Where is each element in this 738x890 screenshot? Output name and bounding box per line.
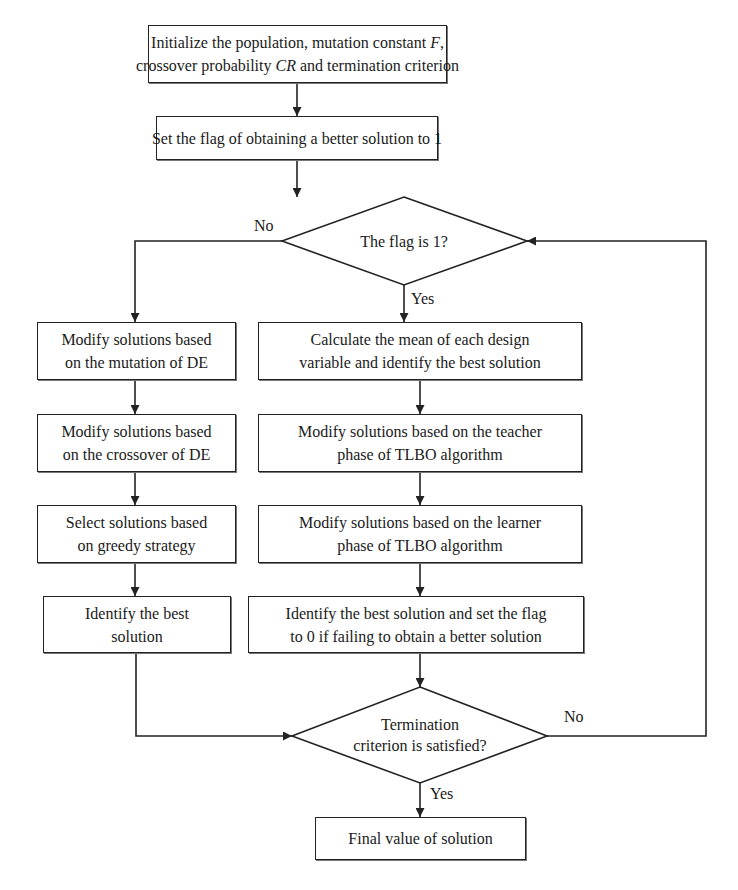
termination-line1: Termination: [330, 714, 510, 735]
de-identify-line2: solution: [111, 625, 163, 648]
term-yes-label: Yes: [430, 785, 453, 803]
init-line2-rest: and termination criterion: [296, 57, 459, 74]
de-crossover-line2: on the crossover of DE: [63, 443, 211, 466]
tlbo-mean-line2: variable and identify the best solution: [299, 351, 540, 374]
init-line2: crossover probability CR and termination…: [136, 54, 459, 77]
arrow-identify-to-termination: [136, 653, 292, 736]
flag-decision-text: The flag is 1?: [334, 231, 474, 252]
init-line1: Initialize the population, mutation cons…: [151, 31, 444, 54]
termination-line2: criterion is satisfied?: [330, 735, 510, 756]
termination-decision-text: Termination criterion is satisfied?: [330, 714, 510, 756]
de-crossover-box: Modify solutions based on the crossover …: [37, 414, 236, 472]
tlbo-identify-box: Identify the best solution and set the f…: [248, 596, 584, 653]
set-flag-text: Set the flag of obtaining a better solut…: [152, 127, 442, 150]
init-line1-punct: ,: [440, 34, 444, 51]
tlbo-learner-box: Modify solutions based on the learner ph…: [258, 505, 582, 563]
flag-yes-label: Yes: [411, 290, 434, 308]
tlbo-mean-box: Calculate the mean of each design variab…: [258, 322, 582, 380]
de-mutation-box: Modify solutions based on the mutation o…: [37, 322, 236, 380]
tlbo-learner-line2: phase of TLBO algorithm: [337, 534, 502, 557]
final-box: Final value of solution: [315, 817, 526, 860]
de-mutation-line2: on the mutation of DE: [65, 351, 208, 374]
de-select-line2: on greedy strategy: [77, 534, 195, 557]
tlbo-mean-line1: Calculate the mean of each design: [310, 328, 529, 351]
term-no-label: No: [564, 708, 584, 726]
de-mutation-line1: Modify solutions based: [61, 328, 211, 351]
arrow-no-to-mutation: [135, 241, 282, 322]
set-flag-box: Set the flag of obtaining a better solut…: [156, 116, 438, 160]
tlbo-identify-line1: Identify the best solution and set the f…: [286, 602, 547, 625]
flag-no-label: No: [254, 217, 274, 235]
var-F: F: [430, 34, 440, 51]
de-select-line1: Select solutions based: [66, 511, 207, 534]
tlbo-identify-line2: to 0 if failing to obtain a better solut…: [290, 625, 542, 648]
de-select-box: Select solutions based on greedy strateg…: [37, 505, 236, 563]
tlbo-learner-line1: Modify solutions based on the learner: [299, 511, 541, 534]
de-identify-box: Identify the best solution: [43, 596, 231, 653]
de-crossover-line1: Modify solutions based: [61, 420, 211, 443]
init-line2-text: crossover probability: [136, 57, 276, 74]
de-identify-line1: Identify the best: [85, 602, 189, 625]
var-CR: CR: [276, 57, 296, 74]
init-line1-text: Initialize the population, mutation cons…: [151, 34, 430, 51]
init-box: Initialize the population, mutation cons…: [148, 25, 447, 83]
tlbo-teacher-box: Modify solutions based on the teacher ph…: [258, 414, 582, 472]
tlbo-teacher-line2: phase of TLBO algorithm: [337, 443, 502, 466]
tlbo-teacher-line1: Modify solutions based on the teacher: [298, 420, 542, 443]
arrow-no-loop-back: [527, 241, 706, 736]
final-text: Final value of solution: [348, 827, 492, 850]
